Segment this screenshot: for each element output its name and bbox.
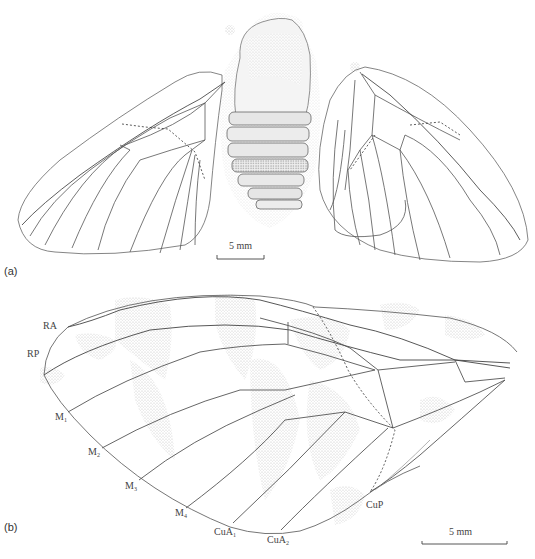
vein-label-rp: RP	[27, 348, 39, 359]
panel-label-b: (b)	[4, 521, 17, 533]
vein-label-m1: M1	[55, 411, 67, 423]
panel-label-a: (a)	[4, 265, 17, 277]
figure: (a) (b) 5 mm 5 mm RA RP M1 M2 M3 M4 CuA1…	[0, 0, 535, 559]
panel-b	[40, 294, 517, 544]
scale-bar-b-label: 5 mm	[449, 526, 472, 537]
scale-bar-a	[217, 255, 264, 259]
scale-bar-a-label: 5 mm	[229, 240, 252, 251]
vein-label-cua2: CuA2	[267, 534, 289, 546]
vein-label-cup: CuP	[366, 499, 383, 510]
vein-label-m4: M4	[175, 507, 187, 519]
vein-label-cua1: CuA1	[214, 526, 236, 538]
fossil-body	[220, 13, 360, 228]
wing-color-pattern	[40, 294, 485, 525]
figure-drawing	[0, 0, 535, 559]
right-wing	[319, 67, 528, 262]
left-wing	[18, 72, 225, 254]
vein-label-m2: M2	[88, 446, 100, 458]
scale-bar-b	[422, 541, 507, 544]
vein-label-m3: M3	[125, 480, 137, 492]
panel-a	[18, 13, 528, 262]
vein-label-ra: RA	[43, 320, 57, 331]
